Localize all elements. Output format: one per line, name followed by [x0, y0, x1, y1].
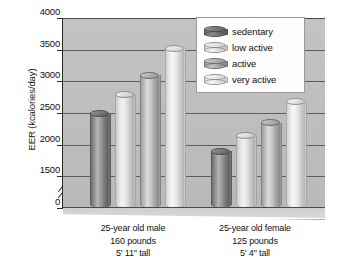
bar-male-active [140, 75, 159, 208]
y-tick-label: 1500 [16, 165, 60, 175]
eer-bar-chart: EER (kcalories/day) 40003500300025002000… [0, 0, 353, 272]
bar-body [165, 48, 186, 208]
bar-cap-ellipse [236, 132, 255, 139]
y-axis-tick-labels: 4000350030002500200015000 [16, 12, 60, 208]
legend-label: low active [232, 42, 273, 53]
bar-cap-ellipse [165, 45, 184, 52]
y-tick-label: 3500 [16, 39, 60, 49]
legend-swatch-icon [204, 42, 226, 53]
legend-swatch-icon [204, 26, 226, 37]
group-caption-line: 125 pounds [190, 235, 320, 248]
bar-female-sedentary [211, 151, 230, 208]
y-axis-tick-mark [57, 18, 63, 19]
bar-female-active [261, 123, 280, 209]
bar-body [286, 102, 307, 208]
group-caption-line: 25-year old male [68, 222, 198, 235]
legend-label: active [232, 58, 256, 69]
group-caption-line: 5' 11" tall [68, 247, 198, 260]
legend-label: very active [232, 74, 276, 85]
bar-female-very-active [286, 102, 305, 208]
bar-female-low-active [236, 135, 255, 208]
y-axis-tick-mark [57, 81, 63, 82]
legend-swatch-icon [204, 58, 226, 69]
group-caption-line: 160 pounds [68, 235, 198, 248]
bar-male-low-active [115, 94, 134, 208]
y-axis-tick-mark [57, 176, 63, 177]
bar-body [115, 94, 136, 208]
bar-body [236, 135, 257, 208]
y-tick-label: 2000 [16, 134, 60, 144]
bar-male-sedentary [90, 113, 109, 208]
y-axis-tick-mark [57, 145, 63, 146]
y-tick-label: 0 [16, 197, 60, 207]
bar-cap-ellipse [115, 91, 134, 98]
bar-cap-ellipse [261, 119, 280, 126]
y-tick-label: 3000 [16, 70, 60, 80]
legend: sedentarylow activeactivevery active [196, 17, 305, 93]
y-axis-tick-mark [57, 50, 63, 51]
bar-body [140, 75, 161, 208]
legend-item-very-active: very active [204, 71, 298, 87]
group-caption-line: 5' 4" tall [190, 247, 320, 260]
bar-cap-ellipse [90, 110, 109, 117]
bar-cap-ellipse [211, 148, 230, 155]
y-tick-label: 2500 [16, 102, 60, 112]
bar-body [90, 113, 111, 208]
bar-body [261, 123, 282, 209]
y-axis-tick-mark [57, 208, 63, 209]
x-axis-group-label-female: 25-year old female125 pounds5' 4" tall [190, 222, 320, 260]
legend-item-sedentary: sedentary [204, 23, 298, 39]
bar-cap-ellipse [140, 72, 159, 79]
bar-body [211, 151, 232, 208]
legend-item-active: active [204, 55, 298, 71]
legend-swatch-icon [204, 74, 226, 85]
legend-item-low-active: low active [204, 39, 298, 55]
x-axis-group-label-male: 25-year old male160 pounds5' 11" tall [68, 222, 198, 260]
y-axis-tick-mark [57, 113, 63, 114]
bar-male-very-active [165, 48, 184, 208]
y-tick-label: 4000 [16, 7, 60, 17]
legend-label: sedentary [232, 26, 273, 37]
chart-floor [63, 207, 339, 220]
group-caption-line: 25-year old female [190, 222, 320, 235]
